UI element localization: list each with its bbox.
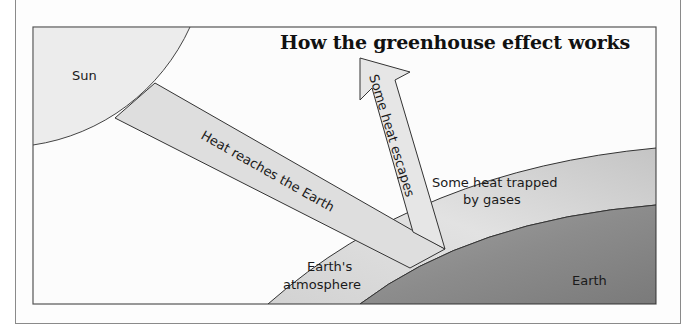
atmosphere-label-line1: Earth's [307,259,352,274]
earth-label: Earth [572,273,607,288]
trapped-label-line2: by gases [463,192,521,207]
trapped-label-line1: Some heat trapped [432,175,558,190]
diagram-title: How the greenhouse effect works [255,31,655,53]
sun-label: Sun [72,68,97,83]
atmosphere-label-line2: atmosphere [283,277,361,292]
